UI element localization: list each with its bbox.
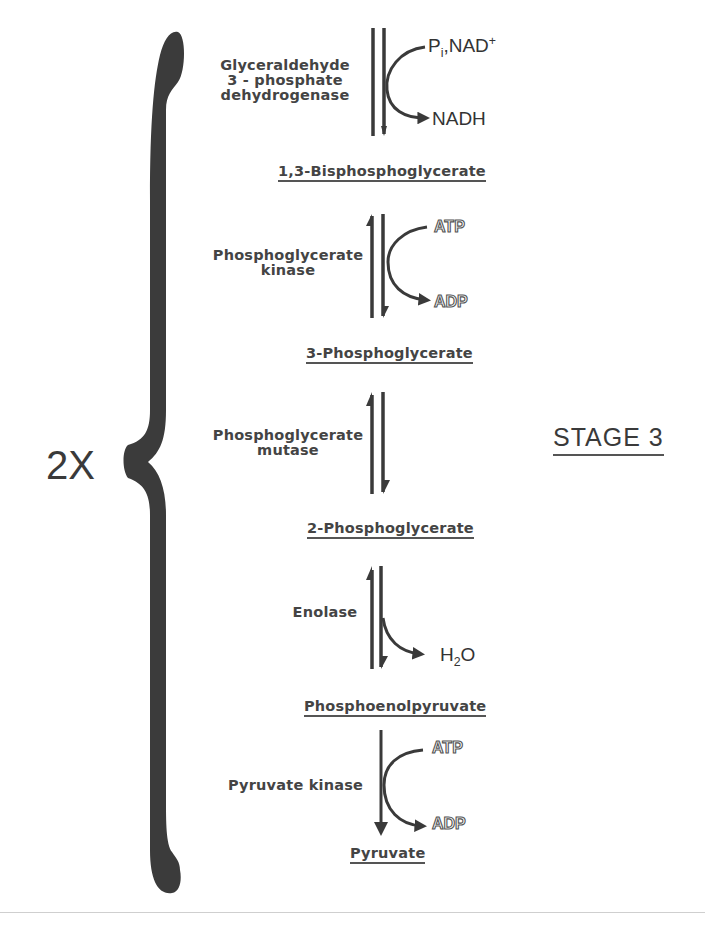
cofactor-nadh: NADH [432, 108, 486, 130]
enzyme-enolase: Enolase [285, 605, 365, 620]
cofactor-adp: ADP [432, 815, 466, 833]
irreversible-arrow-5 [374, 730, 423, 836]
enzyme-line: mutase [203, 443, 373, 458]
enzyme-line: 3 - phosphate [205, 73, 365, 88]
enzyme-line: Phosphoglycerate [203, 428, 373, 443]
enzyme-pyruvate-kinase: Pyruvate kinase [228, 778, 378, 793]
enzyme-line: Enolase [285, 605, 365, 620]
reversible-arrow-2 [366, 214, 427, 318]
enzyme-line: Glyceraldehyde [205, 58, 365, 73]
reversible-arrow-4 [366, 566, 420, 669]
enzyme-pgk: Phosphoglycerate kinase [203, 248, 373, 278]
enzyme-line: kinase [203, 263, 373, 278]
cofactor-adp: ADP [434, 293, 468, 311]
metabolite-pyruvate: Pyruvate [350, 845, 425, 864]
cofactor-h2o: H2O [440, 644, 475, 669]
cofactor-atp: ATP [432, 739, 463, 757]
enzyme-line: Pyruvate kinase [228, 778, 378, 793]
bottom-divider [0, 912, 705, 913]
cofactor-pi-nad: Pi,NAD+ [428, 34, 496, 60]
metabolite-2pg: 2-Phosphoglycerate [307, 520, 474, 539]
cofactor-atp: ATP [434, 218, 465, 236]
enzyme-pgm: Phosphoglycerate mutase [203, 428, 373, 458]
metabolite-13bpg: 1,3-Bisphosphoglycerate [278, 163, 486, 182]
multiplier-label: 2X [46, 443, 95, 488]
enzyme-line: Phosphoglycerate [203, 248, 373, 263]
stage-label: STAGE 3 [553, 423, 664, 456]
enzyme-line: dehydrogenase [205, 88, 365, 103]
brace-icon [124, 32, 185, 893]
reversible-arrow-1 [373, 28, 425, 136]
metabolite-pep: Phosphoenolpyruvate [304, 698, 486, 717]
enzyme-gapdh: Glyceraldehyde 3 - phosphate dehydrogena… [205, 58, 365, 103]
metabolite-3pg: 3-Phosphoglycerate [306, 345, 473, 364]
